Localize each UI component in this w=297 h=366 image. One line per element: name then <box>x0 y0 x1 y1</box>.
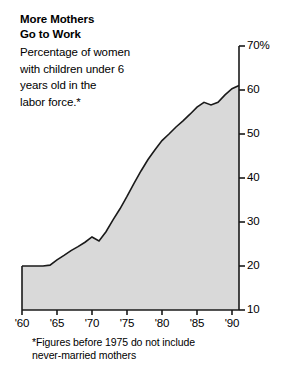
chart-footnote: *Figures before 1975 do not include neve… <box>32 336 282 362</box>
x-axis-tick-label: '70 <box>72 317 112 329</box>
x-axis-tick-label: '65 <box>37 317 77 329</box>
x-axis-tick-label: '85 <box>177 317 217 329</box>
x-axis-tick-label: '60 <box>2 317 42 329</box>
y-axis-tick-label: 60 <box>247 83 260 95</box>
chart-footnote-line-2: never-married mothers <box>32 349 282 362</box>
chart-figure: More Mothers Go to Work Percentage of wo… <box>0 0 297 366</box>
y-axis-tick-label: 70% <box>247 39 270 51</box>
y-axis-tick-label: 20 <box>247 259 260 271</box>
y-axis-tick-label: 40 <box>247 171 260 183</box>
y-axis-tick-label: 30 <box>247 215 260 227</box>
x-axis-tick-label: '80 <box>142 317 182 329</box>
x-axis-tick-label: '90 <box>212 317 252 329</box>
chart-footnote-line-1: *Figures before 1975 do not include <box>32 336 282 349</box>
y-axis-tick-label: 50 <box>247 127 260 139</box>
y-axis-tick-label: 10 <box>247 303 260 315</box>
x-axis-tick-label: '75 <box>107 317 147 329</box>
area-fill <box>22 86 239 310</box>
